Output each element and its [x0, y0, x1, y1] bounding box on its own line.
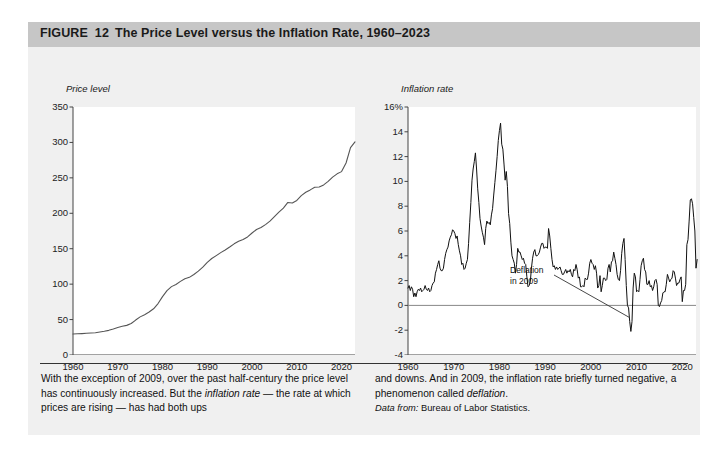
chart-inflation-rate-svg	[360, 50, 698, 355]
caption-left-italic: inflation rate	[205, 388, 261, 399]
figure-label: FIGURE	[40, 26, 88, 40]
caption-source-text: Bureau of Labor Statistics.	[418, 403, 530, 413]
caption-right-text2: .	[505, 388, 508, 399]
chart-inflation-rate: Inflation rate 16%14121086420-2-41960197…	[360, 50, 698, 355]
caption-right-italic: deflation	[467, 388, 506, 399]
caption-source-label: Data from:	[375, 403, 418, 413]
chart-price-level: Price level 3503002502001501005001960197…	[30, 50, 360, 355]
figure-number: 12	[95, 26, 109, 40]
deflation-annotation-line2: in 2009	[510, 276, 544, 287]
deflation-annotation-line1: Deflation	[510, 265, 544, 276]
figure-title: The Price Level versus the Inflation Rat…	[115, 26, 430, 40]
deflation-annotation: Deflation in 2009	[510, 265, 544, 287]
figure-header-text: FIGURE12The Price Level versus the Infla…	[40, 26, 430, 40]
caption-column-left: With the exception of 2009, over the pas…	[41, 372, 356, 416]
figure-container: FIGURE12The Price Level versus the Infla…	[28, 22, 700, 435]
caption-divider	[40, 363, 688, 364]
caption-right-text1: and downs. And in 2009, the inflation ra…	[375, 373, 676, 399]
figure-header-bar: FIGURE12The Price Level versus the Infla…	[28, 22, 700, 47]
caption-column-right: and downs. And in 2009, the inflation ra…	[375, 372, 695, 416]
chart-price-level-svg	[30, 50, 360, 355]
caption-source: Data from: Bureau of Labor Statistics.	[375, 401, 695, 416]
